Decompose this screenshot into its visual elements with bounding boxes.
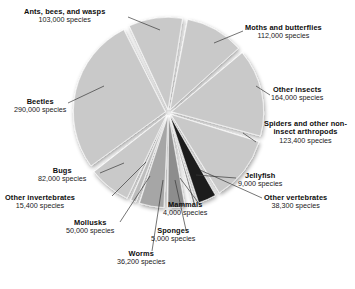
label-worms-value: 36,200 species — [117, 258, 165, 266]
label-sponges: Sponges 5,000 species — [151, 227, 195, 243]
label-jellyfish: Jellyfish 9,000 species — [238, 172, 282, 188]
label-mollusks-value: 50,000 species — [66, 227, 114, 235]
label-other-invertebrates: Other invertebrates 15,400 species — [5, 194, 75, 210]
pie-chart-figure: Ants, bees, and wasps 103,000 species Mo… — [0, 0, 355, 289]
label-bugs-value: 82,000 species — [38, 175, 86, 183]
label-other-vertebrates: Other vertebrates 38,300 species — [264, 194, 327, 210]
pie-slices — [73, 17, 263, 207]
label-beetles-value: 290,000 species — [14, 106, 66, 114]
label-moths-butterflies-value: 112,000 species — [245, 32, 322, 40]
label-mammals-value: 4,000 species — [163, 209, 207, 217]
label-other-insects-value: 164,000 species — [271, 94, 323, 102]
label-worms: Worms 36,200 species — [117, 250, 165, 266]
label-mollusks: Mollusks 50,000 species — [66, 219, 114, 235]
label-other-insects: Other insects 164,000 species — [271, 86, 323, 102]
label-sponges-value: 5,000 species — [151, 235, 195, 243]
label-ants-bees-wasps: Ants, bees, and wasps 103,000 species — [24, 8, 105, 24]
label-jellyfish-value: 9,000 species — [238, 180, 282, 188]
label-other-invertebrates-value: 15,400 species — [5, 202, 75, 210]
label-spiders-arthropods-value: 123,400 species — [258, 137, 353, 145]
label-bugs: Bugs 82,000 species — [38, 167, 86, 183]
label-ants-bees-wasps-value: 103,000 species — [24, 16, 105, 24]
label-beetles: Beetles 290,000 species — [14, 98, 66, 114]
label-spiders-arthropods: Spiders and other non- insect arthropods… — [258, 120, 353, 145]
label-mammals: Mammals 4,000 species — [163, 201, 207, 217]
label-other-vertebrates-value: 38,300 species — [264, 202, 327, 210]
label-moths-butterflies: Moths and butterflies 112,000 species — [245, 24, 322, 40]
